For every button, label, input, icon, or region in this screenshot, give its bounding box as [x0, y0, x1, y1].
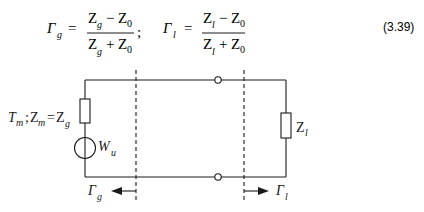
gamma-g-label-symbol: Γ — [87, 183, 97, 198]
zl-symbol: Z — [296, 120, 305, 135]
frac-l-den-z2: Z — [231, 36, 240, 52]
gamma-g-subscript: g — [57, 29, 62, 40]
frac-l-num-sub1: l — [212, 19, 215, 30]
equals-sign-2: = — [184, 20, 192, 36]
frac-l-num-z1: Z — [203, 10, 212, 26]
source-impedance-resistor — [80, 99, 90, 123]
load-resistor — [281, 113, 291, 138]
equals-sign-1: = — [68, 20, 76, 36]
frac-g-num-z2: Z — [118, 10, 127, 26]
zg-subscript: g — [65, 118, 70, 129]
tm-separator: ; — [25, 110, 29, 125]
gamma-l-subscript: l — [173, 29, 176, 40]
frac-l-den-sub2: 0 — [240, 44, 245, 55]
frac-g-den-z2: Z — [118, 36, 127, 52]
frac-g-num-z1: Z — [88, 10, 97, 26]
frac-g-num-op: − — [106, 10, 114, 26]
arrow-right-icon — [258, 187, 269, 195]
gamma-l-label-symbol: Γ — [275, 183, 285, 198]
frac-g-num-sub1: g — [97, 19, 102, 30]
wu-symbol: W — [98, 139, 111, 154]
circuit — [75, 70, 292, 201]
separator: ; — [137, 24, 141, 40]
gamma-l-symbol: Γ — [162, 20, 173, 36]
frac-l-den-op: + — [219, 36, 227, 52]
figure: Γ g = Z g − Z 0 Z g + Z 0 ; Γ l = Z l − … — [0, 0, 424, 212]
terminal-top-icon — [215, 77, 221, 83]
gamma-g-symbol: Γ — [46, 20, 57, 36]
tm-subscript: m — [16, 117, 23, 128]
zm-subscript: m — [38, 117, 45, 128]
arrow-left-icon — [111, 187, 122, 195]
frac-g-den-z1: Z — [88, 36, 97, 52]
frac-g-den-op: + — [106, 36, 114, 52]
equation: Γ g = Z g − Z 0 Z g + Z 0 ; Γ l = Z l − … — [46, 10, 414, 57]
circuit-labels: T m ; Z m = Z g W u Z l Γ g Γ l — [8, 110, 308, 202]
frac-l-den-z1: Z — [203, 36, 212, 52]
gamma-l-label-subscript: l — [285, 191, 288, 202]
frac-g-num-sub2: 0 — [127, 18, 132, 29]
zg-symbol: Z — [56, 110, 65, 125]
wu-subscript: u — [111, 147, 116, 158]
zl-subscript: l — [305, 127, 308, 138]
zm-equals: = — [47, 110, 55, 125]
frac-g-den-sub2: 0 — [127, 44, 132, 55]
frac-l-num-z2: Z — [231, 10, 240, 26]
gamma-g-label-subscript: g — [97, 191, 102, 202]
frac-l-num-op: − — [219, 10, 227, 26]
equation-number: (3.39) — [383, 20, 414, 34]
terminal-bottom-icon — [215, 174, 221, 180]
frac-g-den-sub1: g — [97, 46, 102, 57]
frac-l-den-sub1: l — [212, 46, 215, 57]
frac-l-num-sub2: 0 — [240, 18, 245, 29]
